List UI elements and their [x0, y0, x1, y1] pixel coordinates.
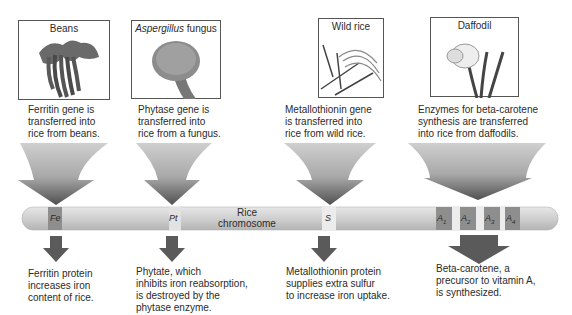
down-arrow-phytase	[159, 236, 185, 262]
result-text: Beta-carotene, a precursor to vitamin A,…	[436, 263, 535, 299]
gene-label-a3: A3	[485, 213, 494, 225]
result-text: Metallothionin protein supplies extra su…	[286, 266, 390, 302]
result-text: Ferritin protein increases iron content …	[28, 268, 94, 304]
gene-label-pt: Pt	[169, 213, 178, 223]
result-text: Phytate, which inhibits iron reabsorptio…	[136, 266, 248, 314]
down-arrow-metallothionin	[311, 236, 337, 262]
gene-label-fe: Fe	[50, 213, 61, 223]
funnel-arrow-beans	[18, 143, 108, 205]
gene-label-a1: A1	[437, 213, 446, 225]
chromosome-label: Rice chromosome	[212, 207, 282, 229]
funnel-arrow-daffodil	[408, 143, 546, 200]
funnel-arrow-fungus	[136, 143, 212, 205]
gene-label-a4: A4	[506, 213, 515, 225]
down-arrow-ferritin	[43, 236, 69, 262]
funnel-arrow-wildrice	[284, 143, 376, 205]
gene-label-a2: A2	[461, 213, 470, 225]
down-arrow-betacarotene	[448, 235, 510, 264]
gene-label-s: S	[325, 213, 331, 223]
